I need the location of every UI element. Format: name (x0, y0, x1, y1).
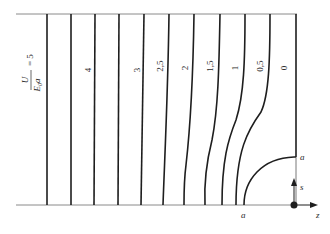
ratio-numerator: U (20, 76, 30, 83)
contour-line-1-5 (184, 14, 194, 205)
electrode-bottom-label: a (241, 210, 246, 220)
ratio-label: U E0a = 5 (20, 54, 43, 93)
ratio-denominator-tail: a (32, 78, 42, 83)
equipotential-diagram: a a s z 4 3 2,5 2 1,5 1 0,5 0 U E0a = 5 (0, 0, 330, 234)
contour-label-3: 3 (132, 67, 142, 72)
electrode-quarter-circle (244, 157, 296, 205)
z-arrow-head (310, 202, 318, 208)
electrode-top-label: a (300, 152, 305, 162)
ratio-equals: = 5 (25, 54, 35, 66)
z-axis-label: z (315, 210, 320, 220)
contour-label-0-5: 0,5 (255, 60, 265, 72)
contour-line-3-5 (94, 14, 95, 205)
contour-line-3 (118, 14, 119, 205)
origin-dot (291, 202, 298, 209)
contour-label-0: 0 (279, 65, 289, 70)
contour-line-1 (205, 14, 220, 205)
contour-line-2 (163, 14, 169, 205)
contour-label-2-5: 2,5 (155, 60, 165, 72)
contour-label-2: 2 (180, 66, 190, 71)
contour-label-1-5: 1,5 (205, 60, 215, 72)
s-axis-label: s (300, 182, 304, 192)
contour-line-0-5 (222, 14, 245, 205)
contour-label-1: 1 (230, 66, 240, 71)
contour-line-2-5 (141, 14, 144, 205)
contour-label-4: 4 (83, 67, 93, 72)
equipotential-lines (47, 14, 270, 205)
svg-text:E0a: E0a (32, 78, 43, 93)
